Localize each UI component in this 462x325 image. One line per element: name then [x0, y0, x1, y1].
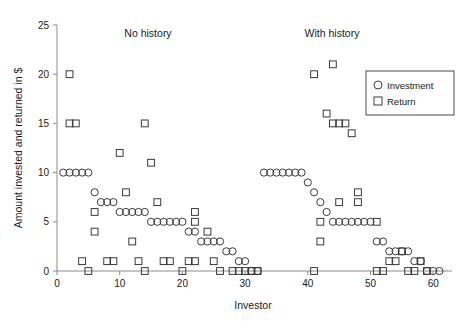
scatter-chart-figure: 0510152025 0102030405060 No history With…: [0, 0, 462, 325]
data-point-return: [79, 258, 86, 265]
x-tick-label: 20: [177, 278, 189, 289]
y-tick-label: 15: [38, 118, 50, 129]
data-point-return: [348, 130, 355, 137]
legend-label-return: Return: [387, 96, 416, 107]
x-tick-label: 50: [365, 278, 377, 289]
data-point-return: [329, 61, 336, 68]
data-point-return: [355, 199, 362, 206]
y-tick-label: 0: [43, 266, 49, 277]
data-point-return: [355, 189, 362, 196]
data-point-return: [317, 238, 324, 245]
data-point-return: [123, 189, 130, 196]
y-tick-label: 5: [43, 216, 49, 227]
data-point-return: [135, 258, 142, 265]
group-label-with-history: With history: [305, 27, 361, 39]
data-point-return: [311, 71, 318, 78]
data-point-return: [336, 199, 343, 206]
legend-border: [366, 71, 454, 115]
x-tick-label: 30: [240, 278, 252, 289]
data-point-return: [116, 150, 123, 157]
data-point-return: [148, 159, 155, 166]
data-point-investment: [91, 189, 98, 196]
x-tick-label: 10: [114, 278, 126, 289]
chart-legend[interactable]: Investment Return: [366, 71, 454, 115]
y-tick-label: 25: [38, 20, 50, 31]
data-point-return: [91, 209, 98, 216]
data-point-return: [141, 120, 148, 127]
x-axis-title: Investor: [234, 299, 272, 311]
group-label-no-history: No history: [124, 27, 172, 39]
data-point-return: [154, 199, 161, 206]
data-point-return: [204, 228, 211, 235]
data-point-return: [129, 238, 136, 245]
x-tick-label: 40: [302, 278, 314, 289]
data-point-investment: [310, 189, 317, 196]
data-point-return: [210, 258, 217, 265]
x-tick-label: 60: [428, 278, 440, 289]
y-tick-label: 20: [38, 69, 50, 80]
data-point-return: [323, 110, 330, 117]
legend-label-investment: Investment: [387, 80, 434, 91]
x-tick-label: 0: [54, 278, 60, 289]
data-point-investment: [323, 208, 330, 215]
data-point-investment: [304, 179, 311, 186]
data-point-return: [192, 209, 199, 216]
data-point-return: [91, 228, 98, 235]
data-point-return: [317, 218, 324, 225]
data-point-return: [66, 71, 73, 78]
plot-canvas: 0510152025 0102030405060 No history With…: [0, 0, 462, 325]
data-point-return: [192, 218, 199, 225]
y-axis-ticks: 0510152025: [38, 20, 57, 277]
y-axis-title: Amount invested and returned in $: [12, 68, 24, 229]
x-axis-ticks: 0102030405060: [54, 271, 439, 289]
y-tick-label: 10: [38, 167, 50, 178]
data-point-investment: [317, 199, 324, 206]
